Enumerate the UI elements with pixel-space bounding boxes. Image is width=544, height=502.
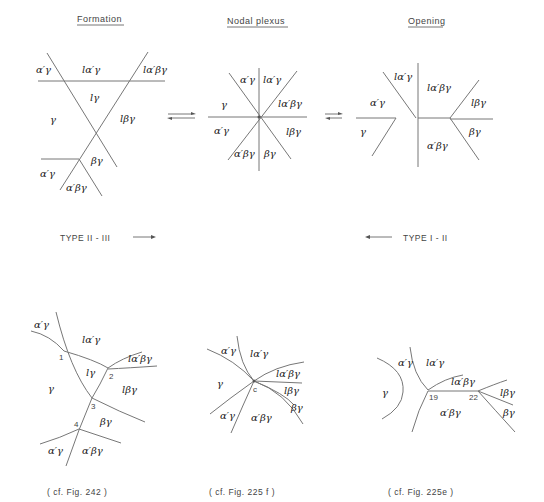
title-nodal-plexus: Nodal plexus [227,16,285,26]
svg-text:γ: γ [48,383,54,394]
svg-text:α′γ: α′γ [48,445,63,456]
svg-text:lγ: lγ [90,92,99,103]
svg-text:α′γ: α′γ [214,125,229,136]
svg-text:α′βγ: α′βγ [440,407,461,418]
svg-text:α′γ: α′γ [34,319,49,330]
svg-text:1: 1 [59,353,64,362]
svg-text:βγ: βγ [290,402,303,413]
svg-text:lα′βγ: lα′βγ [451,376,475,387]
svg-text:lβγ: lβγ [122,384,137,395]
caption-fig-242: ( cf. Fig. 242 ) [47,487,107,497]
diagram-formation: α′γ lα′γ lα′βγ lγ γ lβγ βγ α′γ α′βγ [36,52,167,196]
svg-text:lγ: lγ [86,367,95,378]
svg-text:α′γ: α′γ [370,97,385,108]
svg-text:lβγ: lβγ [471,97,486,108]
svg-text:2: 2 [109,372,114,381]
svg-text:lα′βγ: lα′βγ [276,368,300,379]
type-label-left: TYPE II - III [60,233,110,243]
title-opening: Opening [408,16,446,26]
svg-text:lα′γ: lα′γ [82,64,100,75]
svg-text:19: 19 [429,393,438,402]
svg-text:4: 4 [74,420,79,429]
svg-text:lβγ: lβγ [120,113,135,124]
diagram-fig-225f: α′γ lα′γ lα′βγ γ lβγ βγ α′γ α′βγ c [207,336,304,433]
svg-text:lα′γ: lα′γ [426,357,444,368]
svg-text:γ: γ [382,387,388,398]
svg-text:lα′βγ: lα′βγ [128,353,152,364]
svg-text:lα′γ: lα′γ [250,348,268,359]
equilibrium-arrows-left [167,112,196,120]
svg-text:α′βγ: α′βγ [427,140,448,151]
svg-text:lα′γ: lα′γ [394,71,412,82]
svg-text:lα′γ: lα′γ [263,74,281,85]
caption-fig-225e: ( cf. Fig. 225e ) [388,487,454,497]
diagram-fig-242: α′γ lα′γ lα′βγ lγ γ lβγ βγ α′γ α′βγ 1 2 … [31,312,157,466]
svg-text:α′βγ: α′βγ [234,148,255,159]
svg-text:lβγ: lβγ [500,387,515,398]
svg-text:γ: γ [50,114,56,125]
diagram-fig-225e: α′γ lα′γ lα′βγ γ lβγ α′βγ βγ 19 22 [377,347,515,432]
title-formation: Formation [77,14,122,24]
svg-text:lα′βγ: lα′βγ [278,98,302,109]
caption-fig-225f: ( cf. Fig. 225 f ) [209,487,275,497]
svg-text:lα′βγ: lα′βγ [143,64,167,75]
svg-text:βγ: βγ [90,155,103,166]
svg-text:22: 22 [469,393,478,402]
type-label-right: TYPE I - II [403,233,448,243]
svg-text:α′βγ: α′βγ [82,445,103,456]
svg-text:lα′γ: lα′γ [82,334,100,345]
equilibrium-arrows-right [325,112,343,120]
svg-text:lβγ: lβγ [284,385,299,396]
svg-text:α′βγ: α′βγ [66,182,87,193]
svg-text:c: c [253,385,257,394]
svg-text:βγ: βγ [263,148,276,159]
svg-text:βγ: βγ [502,407,515,418]
svg-text:γ: γ [221,99,227,110]
svg-text:βγ: βγ [468,126,481,137]
svg-text:α′γ: α′γ [398,357,413,368]
phase-diagram-figure: Formation Nodal plexus Opening α′γ lα′γ … [0,0,544,502]
svg-text:α′βγ: α′βγ [251,412,272,423]
svg-text:α′γ: α′γ [40,168,55,179]
svg-text:α′γ: α′γ [221,345,236,356]
svg-text:α′γ: α′γ [220,410,235,421]
svg-text:α′γ: α′γ [36,64,51,75]
svg-text:γ: γ [360,126,366,137]
svg-text:3: 3 [91,402,96,411]
svg-text:α′γ: α′γ [240,74,255,85]
svg-text:lα′βγ: lα′βγ [427,82,451,93]
svg-text:lβγ: lβγ [286,126,301,137]
svg-text:βγ: βγ [99,416,112,427]
diagram-opening: lα′γ lα′βγ α′γ lβγ γ βγ α′βγ [356,63,493,167]
svg-text:γ: γ [217,378,223,389]
diagram-nodal-plexus: α′γ lα′γ γ lα′βγ α′γ lβγ α′βγ βγ [208,68,307,171]
